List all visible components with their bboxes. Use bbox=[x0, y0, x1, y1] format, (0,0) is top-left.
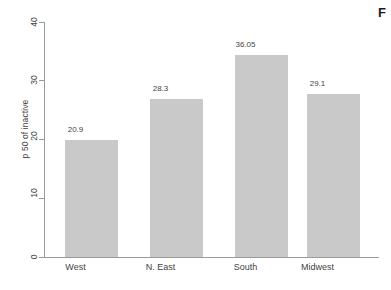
x-axis-line bbox=[44, 257, 379, 258]
y-tick-text: 0 bbox=[29, 255, 39, 260]
bar-west bbox=[65, 140, 118, 257]
x-category-label-south: South bbox=[209, 262, 282, 272]
bar-value-midwest: 29.1 bbox=[281, 79, 354, 88]
x-category-label-west: West bbox=[39, 262, 112, 272]
bar-midwest bbox=[307, 94, 360, 257]
corner-clipped-glyph: F bbox=[378, 5, 387, 21]
x-category-label-midwest: Midwest bbox=[281, 262, 354, 272]
y-tick-text: 10 bbox=[29, 188, 39, 197]
bar-chart-figure: p 50 of inactive 40 30 20 10 0 20.9 28.3… bbox=[0, 0, 391, 290]
y-tick-text: 20 bbox=[29, 131, 39, 140]
y-tick-text: 30 bbox=[29, 75, 39, 84]
bar-value-south: 36.05 bbox=[209, 40, 282, 49]
y-tick-text: 40 bbox=[29, 17, 39, 26]
bar-value-n-east: 28.3 bbox=[124, 84, 197, 93]
x-category-label-n-east: N. East bbox=[124, 262, 197, 272]
bar-value-west: 20.9 bbox=[39, 125, 112, 134]
plot-area bbox=[45, 22, 379, 257]
bar-n-east bbox=[150, 99, 203, 257]
